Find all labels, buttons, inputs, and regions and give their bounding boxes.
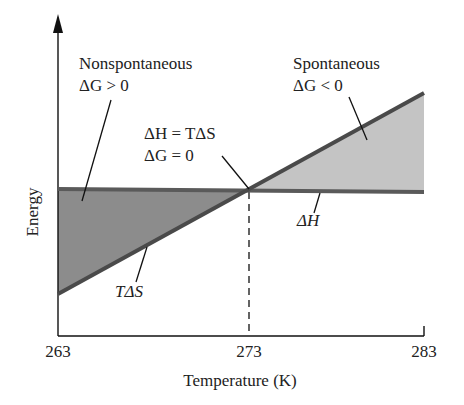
enthalpy-leader xyxy=(314,193,320,213)
nonspontaneous-condition: ΔG > 0 xyxy=(79,76,129,95)
y-axis-arrow-icon xyxy=(53,14,63,33)
spontaneous-condition: ΔG < 0 xyxy=(293,76,343,95)
enthalpy-label: ΔH xyxy=(296,211,321,230)
equilibrium-condition: ΔG = 0 xyxy=(144,146,194,165)
x-axis-title: Temperature (K) xyxy=(183,371,297,390)
entropy-term-label: TΔS xyxy=(115,282,143,301)
x-tick-263: 263 xyxy=(45,342,71,361)
x-tick-283: 283 xyxy=(411,342,437,361)
y-axis-title: Energy xyxy=(23,187,42,236)
nonspontaneous-leader xyxy=(82,100,111,201)
x-tick-273: 273 xyxy=(236,342,262,361)
gibbs-energy-diagram: Nonspontaneous ΔG > 0 Spontaneous ΔG < 0… xyxy=(0,0,464,405)
nonspontaneous-title: Nonspontaneous xyxy=(79,54,192,73)
spontaneous-title: Spontaneous xyxy=(293,54,380,73)
equilibrium-leader xyxy=(222,156,249,189)
equilibrium-equation: ΔH = TΔS xyxy=(144,124,216,143)
